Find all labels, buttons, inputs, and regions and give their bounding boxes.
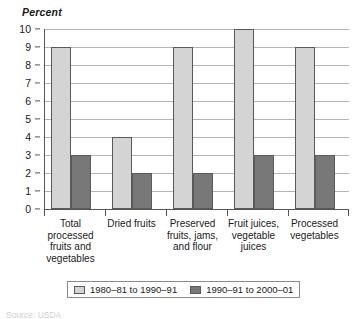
y-axis-tick-mark: [35, 172, 40, 173]
y-axis-tick-mark: [35, 82, 40, 83]
bar-group: [289, 29, 350, 209]
legend-entry: 1980–81 to 1990–91: [74, 285, 177, 295]
chart-figure: Percent 012345678910 Total processed fru…: [0, 0, 357, 319]
y-axis-tick-label: 8: [25, 60, 31, 71]
legend-swatch: [74, 286, 85, 294]
x-axis-tick-mark: [348, 210, 349, 216]
bar-groups: [45, 29, 349, 209]
y-axis-tick-label: 7: [25, 78, 31, 89]
y-axis-tick-label: 4: [25, 132, 31, 143]
y-axis-tick-mark: [35, 64, 40, 65]
bar: [112, 137, 132, 209]
bar-group: [228, 29, 289, 209]
x-axis-tick-mark: [288, 210, 289, 216]
bar-group: [45, 29, 106, 209]
y-axis-tick-labels: 012345678910: [0, 29, 40, 209]
x-axis-tick-label: Dried fruits: [101, 218, 162, 230]
bar: [71, 155, 91, 209]
x-axis-tick-label: Preserved fruits, jams, and flour: [162, 218, 223, 253]
bar: [254, 155, 274, 209]
legend-label: 1980–81 to 1990–91: [90, 285, 177, 295]
y-axis-tick-mark: [35, 28, 40, 29]
bar-group: [167, 29, 228, 209]
y-axis-tick-label: 5: [25, 114, 31, 125]
x-axis-ticks: [44, 210, 349, 216]
y-axis-tick-label: 9: [25, 42, 31, 53]
y-axis-title: Percent: [22, 6, 62, 18]
y-axis-tick-label: 10: [19, 24, 31, 35]
y-axis-tick-mark: [35, 118, 40, 119]
bar: [193, 173, 213, 209]
bar: [132, 173, 152, 209]
y-axis-tick-mark: [35, 100, 40, 101]
bar: [315, 155, 335, 209]
y-axis-tick-label: 0: [25, 204, 31, 215]
x-axis-tick-mark: [227, 210, 228, 216]
x-axis-tick-mark: [105, 210, 106, 216]
bar: [295, 47, 315, 209]
bar-group: [106, 29, 167, 209]
y-axis-tick-mark: [35, 154, 40, 155]
bar: [173, 47, 193, 209]
legend-label: 1990–91 to 2000–01: [206, 285, 293, 295]
x-axis-tick-label: Processed vegetables: [284, 218, 345, 241]
legend-swatch: [190, 286, 201, 294]
x-axis-tick-label: Total processed fruits and vegetables: [40, 218, 101, 264]
y-axis-tick-label: 1: [25, 186, 31, 197]
x-axis-tick-mark: [44, 210, 45, 216]
y-axis-tick-mark: [35, 46, 40, 47]
source-note: Source: USDA: [6, 310, 61, 319]
bar: [234, 29, 254, 209]
y-axis-tick-label: 2: [25, 168, 31, 179]
x-axis-tick-label: Fruit juices, vegetable juices: [223, 218, 284, 253]
x-axis-tick-mark: [166, 210, 167, 216]
y-axis-tick-mark: [35, 190, 40, 191]
x-axis-tick-labels: Total processed fruits and vegetablesDri…: [44, 218, 349, 276]
chart-legend: 1980–81 to 1990–911990–91 to 2000–01: [67, 281, 300, 298]
y-axis-tick-mark: [35, 208, 40, 209]
bar: [51, 47, 71, 209]
y-axis-tick-mark: [35, 136, 40, 137]
y-axis-tick-label: 3: [25, 150, 31, 161]
legend-entry: 1990–91 to 2000–01: [190, 285, 293, 295]
plot-area: [44, 29, 349, 209]
y-axis-tick-label: 6: [25, 96, 31, 107]
